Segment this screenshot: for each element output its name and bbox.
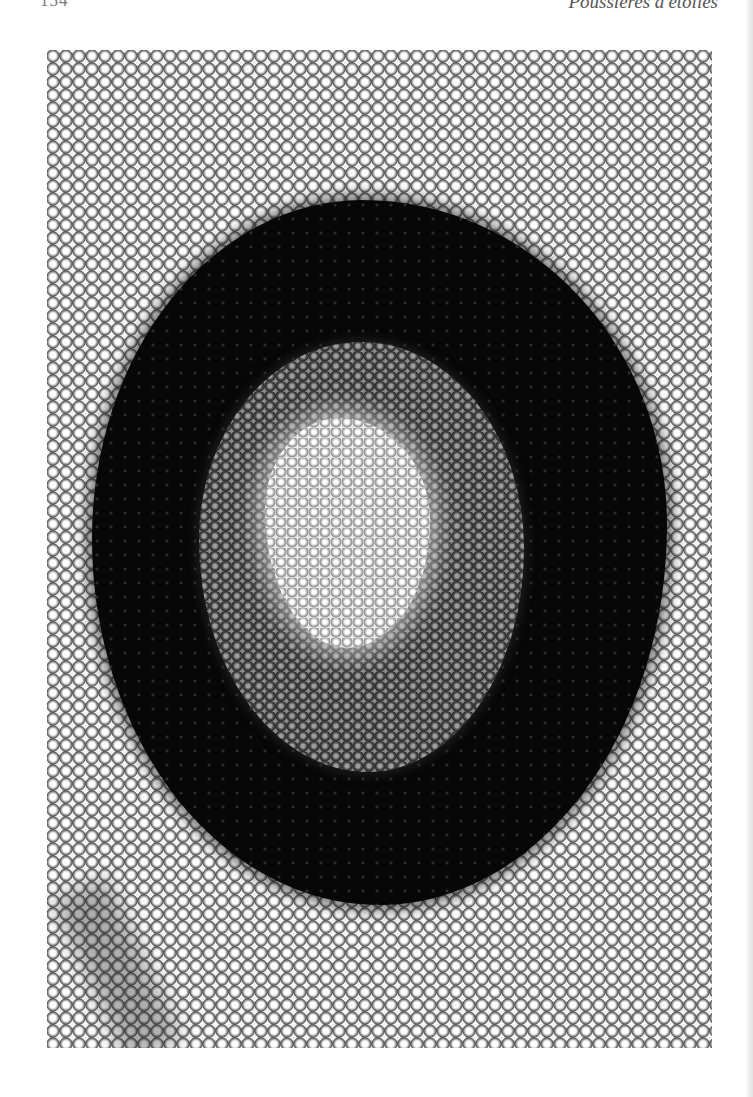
eyespot-photograph: [47, 50, 712, 1048]
page-edge-shading: [745, 0, 753, 1097]
running-head: 154 Poussières d'étoiles: [0, 0, 753, 11]
page-number: 154: [40, 0, 69, 11]
running-title: Poussières d'étoiles: [568, 0, 718, 13]
